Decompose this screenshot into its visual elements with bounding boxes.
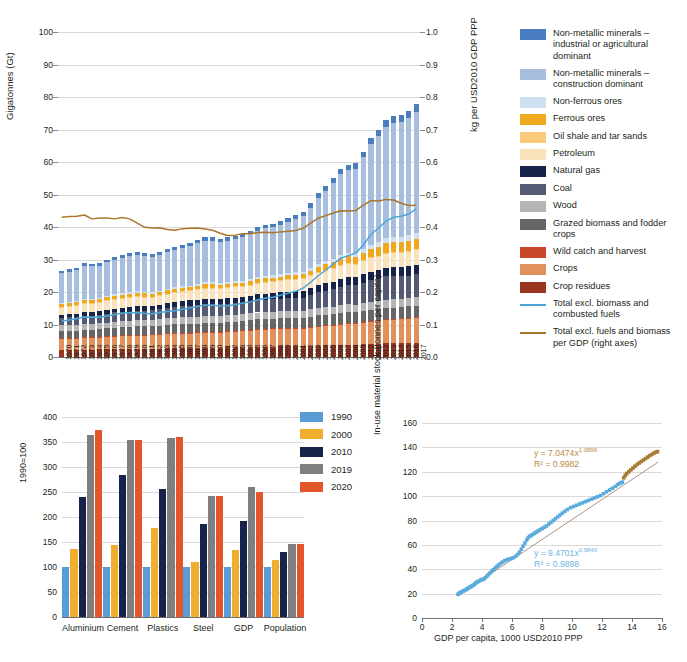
bar xyxy=(87,435,94,617)
bar xyxy=(200,524,207,617)
bar xyxy=(264,567,271,617)
category-label: Plastics xyxy=(143,623,183,633)
legend-item: Total excl. biomass and combusted fuels xyxy=(520,298,685,321)
y-tick-mark-right xyxy=(420,227,425,228)
top-chart-legend: Non-metallic minerals – industrial or ag… xyxy=(520,28,685,354)
y-tick-label: 200 xyxy=(43,513,57,522)
legend-item: 1990 xyxy=(300,411,352,422)
legend-item: Total excl. fuels and biomass per GDP (r… xyxy=(520,326,685,349)
top-chart-lines xyxy=(58,32,420,357)
regression-equation: y = 7.0474x1.0896 xyxy=(534,445,597,459)
legend-swatch xyxy=(520,132,546,143)
y-tick-mark-right xyxy=(420,292,425,293)
top-chart-plot-area: 0102030405060708090100 0.00.10.20.30.40.… xyxy=(58,32,420,357)
bar-chart-y-axis-label: 1990=100 xyxy=(18,443,28,483)
y-tick-label: 40 xyxy=(44,223,53,232)
x-tick-label: 2017 xyxy=(419,345,428,360)
legend-item: Coal xyxy=(520,183,685,195)
bar xyxy=(240,521,247,618)
y-tick-mark-right xyxy=(420,97,425,98)
y-tick-label: 20 xyxy=(44,288,53,297)
legend-item: Oil shale and tar sands xyxy=(520,131,685,143)
y-tick-label: 60 xyxy=(44,158,53,167)
legend-label: 2000 xyxy=(331,429,352,440)
bar xyxy=(297,544,304,618)
legend-item: 2019 xyxy=(300,464,352,475)
bar xyxy=(103,567,110,617)
legend-label: Ferrous ores xyxy=(553,113,605,124)
y-tick-label: 50 xyxy=(44,191,53,200)
legend-swatch xyxy=(520,184,546,195)
legend-label: Petroleum xyxy=(553,148,595,159)
legend-swatch xyxy=(520,282,546,293)
y-tick-mark-right xyxy=(420,195,425,196)
legend-label: Non-metallic minerals – industrial or ag… xyxy=(553,28,685,62)
legend-label: Coal xyxy=(553,183,572,194)
bar xyxy=(79,497,86,618)
y-tick-label: 100 xyxy=(39,28,53,37)
legend-swatch xyxy=(520,219,546,230)
legend-item: Crop residues xyxy=(520,281,685,293)
bar-chart-baseline xyxy=(62,617,304,618)
indexed-growth-chart: 1990=100 050100150200250300350400 Alumin… xyxy=(0,405,360,662)
legend-item: 2010 xyxy=(300,446,352,457)
y-tick-label: 100 xyxy=(403,492,417,501)
stock-vs-gdp-scatter-chart: In-use material stock (tonnes per capita… xyxy=(360,405,687,662)
x-tick-label: 6 xyxy=(502,622,522,632)
y-tick-label: 0 xyxy=(48,353,53,362)
legend-label: Oil shale and tar sands xyxy=(553,131,647,142)
legend-label: Grazed biomass and fodder crops xyxy=(553,218,685,241)
category-label: GDP xyxy=(223,623,263,633)
legend-item: Non-metallic minerals – industrial or ag… xyxy=(520,28,685,62)
x-tick-label: 4 xyxy=(472,622,492,632)
y-tick-label: 400 xyxy=(43,413,57,422)
bar xyxy=(143,567,150,617)
x-tick-label: 16 xyxy=(652,622,672,632)
bar xyxy=(288,544,295,617)
bar xyxy=(216,496,223,618)
legend-item: Crops xyxy=(520,263,685,275)
y-tick-mark-right xyxy=(420,260,425,261)
legend-swatch xyxy=(300,429,323,439)
y-tick-label: 10 xyxy=(44,321,53,330)
legend-swatch xyxy=(520,247,546,258)
y-tick-label: 120 xyxy=(403,468,417,477)
gridline xyxy=(62,417,304,418)
legend-item: 2000 xyxy=(300,429,352,440)
equation-exponent: 0.9840 xyxy=(579,547,597,553)
category-label: Population xyxy=(264,623,304,633)
legend-item: Wild catch and harvest xyxy=(520,246,685,258)
y-tick-label-right: 0.2 xyxy=(426,288,438,297)
bar xyxy=(135,440,142,617)
bar xyxy=(151,528,158,617)
y-tick-label-right: 0.7 xyxy=(426,126,438,135)
scatter-plot-area: 020406080100120140160 0246810121416 y = … xyxy=(422,423,662,618)
y-tick-label-right: 1.0 xyxy=(426,28,438,37)
y-tick-label: 80 xyxy=(408,517,417,526)
legend-label: Natural gas xyxy=(553,165,600,176)
legend-item: Grazed biomass and fodder crops xyxy=(520,218,685,241)
bar xyxy=(224,567,231,617)
y-tick-label: 250 xyxy=(43,488,57,497)
bar xyxy=(176,437,183,617)
legend-swatch xyxy=(300,464,323,474)
legend-swatch xyxy=(520,69,546,80)
legend-label: Total excl. fuels and biomass per GDP (r… xyxy=(553,326,685,349)
legend-swatch xyxy=(520,29,546,40)
y-tick-label: 40 xyxy=(408,565,417,574)
equation-exponent: 1.0896 xyxy=(579,447,597,453)
legend-swatch xyxy=(520,97,546,108)
trend-line xyxy=(62,209,416,321)
legend-item: Natural gas xyxy=(520,165,685,177)
bar xyxy=(248,487,255,617)
legend-swatch xyxy=(300,482,323,492)
y-tick-mark-right xyxy=(420,162,425,163)
y-tick-label: 70 xyxy=(44,126,53,135)
legend-label: Non-ferrous ores xyxy=(553,96,622,107)
data-point xyxy=(656,450,660,454)
data-point xyxy=(621,480,625,484)
category-label: Steel xyxy=(183,623,223,633)
y-tick-label-right: 0.8 xyxy=(426,93,438,102)
legend-swatch xyxy=(300,412,323,422)
legend-label: 2010 xyxy=(331,446,352,457)
